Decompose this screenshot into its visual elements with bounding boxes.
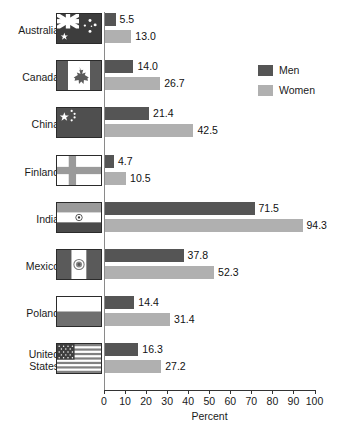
bar-men	[104, 202, 255, 215]
bar-value-label: 5.5	[120, 13, 135, 26]
x-axis-tick-label: 100	[302, 395, 328, 407]
flag-india-icon	[56, 202, 102, 233]
country-label-line: Mexico	[0, 260, 59, 272]
bar-men	[104, 13, 116, 26]
country-label: India	[0, 213, 59, 225]
bar-men	[104, 296, 134, 309]
bar-value-label: 14.4	[138, 296, 158, 309]
x-axis-tick	[209, 390, 210, 394]
legend-swatch-men	[258, 65, 273, 76]
bar-men	[104, 249, 184, 262]
bar-value-label: 16.3	[142, 343, 162, 356]
x-axis-tick	[230, 390, 231, 394]
country-label-line: United	[0, 348, 59, 360]
x-axis-tick	[125, 390, 126, 394]
bar-men	[104, 107, 149, 120]
axis-baseline-vertical	[104, 12, 105, 390]
flag-mexico-icon	[56, 249, 102, 280]
country-label-line: Canada	[0, 71, 59, 83]
bar-value-label: 26.7	[164, 77, 184, 90]
x-axis-tick	[251, 390, 252, 394]
chart-row: Poland 14.431.4	[0, 295, 345, 345]
country-label: Poland	[0, 307, 59, 319]
x-axis-tick	[315, 390, 316, 394]
bar-value-label: 4.7	[118, 155, 133, 168]
bar-men	[104, 60, 133, 73]
country-label-line: India	[0, 213, 59, 225]
chart-row: India 71.594.3	[0, 201, 345, 251]
bar-chart: Australia 5.513.0Canada 14.026.7China	[0, 0, 345, 433]
x-axis-tick	[272, 390, 273, 394]
country-label: UnitedStates	[0, 348, 59, 372]
legend-swatch-women	[258, 85, 273, 96]
bar-value-label: 14.0	[137, 60, 157, 73]
x-axis-label: Percent	[104, 410, 315, 422]
bar-men	[104, 343, 138, 356]
x-axis-tick	[167, 390, 168, 394]
chart-row: UnitedStates 16.327.2	[0, 342, 345, 392]
flag-canada-icon	[56, 60, 102, 91]
bar-value-label: 94.3	[307, 219, 327, 232]
flag-poland-icon	[56, 296, 102, 327]
x-axis-tick	[188, 390, 189, 394]
legend-label: Men	[279, 62, 299, 79]
bar-value-label: 37.8	[188, 249, 208, 262]
country-label-line: Poland	[0, 307, 59, 319]
country-label: Canada	[0, 71, 59, 83]
x-axis-tick	[293, 390, 294, 394]
country-label-line: China	[0, 118, 59, 130]
bar-women	[104, 77, 160, 90]
chart-row: Mexico 37.852.3	[0, 248, 345, 298]
bar-women	[104, 266, 214, 279]
bar-value-label: 31.4	[174, 313, 194, 326]
bar-value-label: 21.4	[153, 107, 173, 120]
flag-australia-icon	[56, 13, 102, 44]
country-label: Australia	[0, 24, 59, 36]
x-axis-tick	[146, 390, 147, 394]
flag-china-icon	[56, 107, 102, 138]
country-label-line: States	[0, 360, 59, 372]
bar-value-label: 42.5	[197, 124, 217, 137]
bar-value-label: 10.5	[130, 172, 150, 185]
x-axis-tick	[104, 390, 105, 394]
bar-women	[104, 313, 170, 326]
flag-finland-icon	[56, 155, 102, 186]
country-label: Mexico	[0, 260, 59, 272]
bar-value-label: 71.5	[259, 202, 279, 215]
chart-row: Australia 5.513.0	[0, 12, 345, 62]
flag-united-states-icon	[56, 343, 102, 374]
country-label-line: Finland	[0, 166, 59, 178]
chart-row: Finland 4.710.5	[0, 154, 345, 204]
chart-row: China 21.442.5	[0, 106, 345, 156]
bar-value-label: 52.3	[218, 266, 238, 279]
country-label: Finland	[0, 166, 59, 178]
legend-label: Women	[279, 82, 315, 99]
bar-value-label: 27.2	[165, 360, 185, 373]
bar-value-label: 13.0	[135, 30, 155, 43]
bar-women	[104, 360, 161, 373]
bar-women	[104, 124, 193, 137]
bar-women	[104, 30, 131, 43]
bar-women	[104, 172, 126, 185]
bar-men	[104, 155, 114, 168]
country-label: China	[0, 118, 59, 130]
bar-women	[104, 219, 303, 232]
country-label-line: Australia	[0, 24, 59, 36]
